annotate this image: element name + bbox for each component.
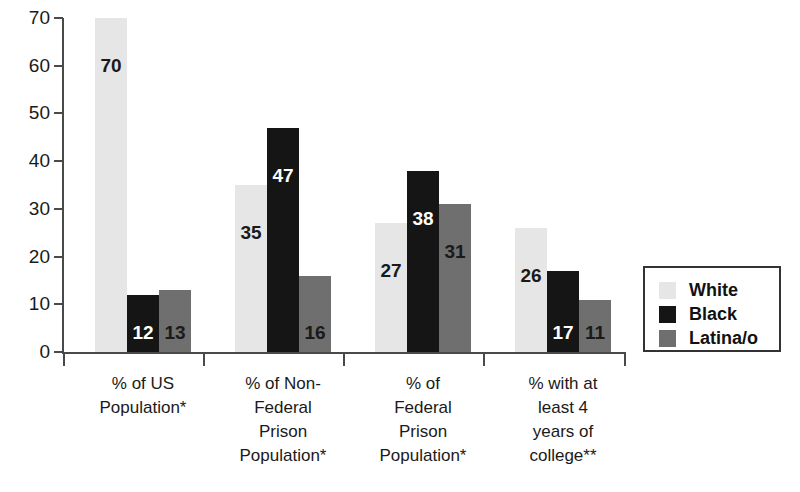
y-axis-tick-label: 30 [4, 199, 50, 218]
bar: 70 [95, 18, 127, 352]
legend-item-label: Latina/o [689, 329, 758, 347]
y-axis-tick [54, 65, 63, 67]
bar-value-label: 13 [159, 323, 191, 342]
y-axis-tick [54, 303, 63, 305]
bar-value-label: 11 [579, 323, 611, 342]
y-axis-tick-label-wrap: 0 [0, 342, 50, 361]
bar: 47 [267, 128, 299, 352]
category-label-line: Prison [353, 420, 493, 444]
bar: 11 [579, 300, 611, 352]
category-label: % of Non-FederalPrisonPopulation* [213, 372, 353, 468]
bar-value-label: 26 [515, 266, 547, 285]
x-axis-end-tick [63, 354, 65, 366]
bar: 13 [159, 290, 191, 352]
y-axis-tick-label-wrap: 40 [0, 151, 50, 170]
category-label-line: % of [353, 372, 493, 396]
category-label-line: Federal [213, 396, 353, 420]
bar-value-label: 17 [547, 323, 579, 342]
legend: WhiteBlackLatina/o [643, 266, 781, 352]
bar: 38 [407, 171, 439, 352]
legend-swatch-icon [659, 306, 676, 323]
category-label-line: Population* [73, 396, 213, 420]
category-label-line: years of [493, 420, 633, 444]
y-axis-tick-label: 70 [4, 8, 50, 27]
category-label-line: % with at [493, 372, 633, 396]
bar-value-label: 47 [267, 166, 299, 185]
category-label-line: college** [493, 444, 633, 468]
y-axis-tick-label-wrap: 60 [0, 56, 50, 75]
category-label: % with atleast 4years ofcollege** [493, 372, 633, 468]
y-axis-tick-label: 40 [4, 151, 50, 170]
legend-swatch-icon [659, 282, 676, 299]
y-axis-tick [54, 256, 63, 258]
category-label-line: Population* [213, 444, 353, 468]
x-axis-end-tick [624, 354, 626, 366]
category-label-line: % of Non- [213, 372, 353, 396]
bar-value-label: 12 [127, 323, 159, 342]
y-axis-tick [54, 17, 63, 19]
y-axis-tick [54, 208, 63, 210]
category-label: % of USPopulation* [73, 372, 213, 420]
category-label-line: least 4 [493, 396, 633, 420]
y-axis-tick-label: 20 [4, 247, 50, 266]
legend-swatch-icon [659, 330, 676, 347]
bar-value-label: 27 [375, 261, 407, 280]
y-axis-tick-label: 10 [4, 294, 50, 313]
legend-item-white[interactable]: White [659, 278, 738, 302]
category-label: % ofFederalPrisonPopulation* [353, 372, 493, 468]
legend-item-latino[interactable]: Latina/o [659, 326, 758, 350]
bar-value-label: 70 [95, 56, 127, 75]
y-axis-tick-label: 0 [4, 342, 50, 361]
bar-value-label: 38 [407, 209, 439, 228]
legend-item-label: Black [689, 305, 737, 323]
bar-value-label: 16 [299, 323, 331, 342]
y-axis-tick-label-wrap: 50 [0, 103, 50, 122]
x-axis-group-tick [483, 354, 485, 366]
y-axis-tick-label-wrap: 10 [0, 294, 50, 313]
bar: 35 [235, 185, 267, 352]
y-axis-tick [54, 160, 63, 162]
y-axis-tick-label-wrap: 20 [0, 247, 50, 266]
bar: 26 [515, 228, 547, 352]
legend-item-label: White [689, 281, 738, 299]
plot-area: 706050403020100 701213354716273831261711… [0, 0, 800, 492]
category-label-line: Federal [353, 396, 493, 420]
legend-item-black[interactable]: Black [659, 302, 737, 326]
bar-chart: 706050403020100 701213354716273831261711… [0, 0, 800, 492]
bar: 27 [375, 223, 407, 352]
x-axis-group-tick [203, 354, 205, 366]
category-label-line: Population* [353, 444, 493, 468]
y-axis-tick [54, 351, 63, 353]
y-axis-tick-label: 60 [4, 56, 50, 75]
x-axis-group-tick [343, 354, 345, 366]
y-axis-tick-label-wrap: 70 [0, 8, 50, 27]
category-label-line: % of US [73, 372, 213, 396]
bar: 12 [127, 295, 159, 352]
bar: 16 [299, 276, 331, 352]
bar-value-label: 31 [439, 242, 471, 261]
bar: 17 [547, 271, 579, 352]
category-label-line: Prison [213, 420, 353, 444]
bar-value-label: 35 [235, 223, 267, 242]
bar: 31 [439, 204, 471, 352]
y-axis-tick-label: 50 [4, 103, 50, 122]
y-axis-tick-label-wrap: 30 [0, 199, 50, 218]
y-axis-tick [54, 112, 63, 114]
